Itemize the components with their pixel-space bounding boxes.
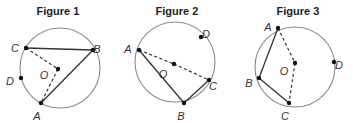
circle-outline (255, 27, 335, 107)
chord-AB (259, 28, 278, 78)
point-label-c: C (281, 110, 289, 122)
chord-BC (184, 80, 209, 103)
circle-figures-diagram: Figure 1ABCDOFigure 2ABCDOFigure 3ABCDO (0, 0, 353, 123)
point-label-a: A (32, 110, 40, 122)
point-c (287, 101, 291, 105)
figure-title: Figure 3 (277, 5, 320, 17)
point-label-a: A (123, 43, 131, 55)
point-o (172, 62, 176, 66)
point-o (293, 61, 297, 65)
point-label-c: C (209, 80, 217, 92)
point-label-o: O (280, 65, 289, 77)
figure-title: Figure 1 (37, 5, 80, 17)
point-label-c: C (11, 42, 19, 54)
point-b (257, 76, 261, 80)
figure-3: Figure 3ABCDO (245, 5, 343, 122)
chord-BA (41, 50, 93, 103)
point-a (137, 48, 141, 52)
point-b (182, 101, 186, 105)
point-c (24, 46, 28, 50)
point-label-o: O (159, 68, 168, 80)
point-label-a: A (263, 21, 271, 33)
radius-CO (26, 48, 58, 69)
point-label-b: B (245, 77, 252, 89)
point-a (276, 26, 280, 30)
point-label-d: D (202, 28, 210, 40)
figure-2: Figure 2ABCDO (123, 5, 217, 122)
chord-CB (26, 48, 93, 50)
point-d (19, 76, 23, 80)
point-a (39, 101, 43, 105)
point-label-o: O (40, 69, 49, 81)
chord-BC (259, 78, 289, 103)
circle-outline (20, 28, 100, 108)
radius-AO (278, 28, 295, 63)
figure-1: Figure 1ABCDO (6, 5, 101, 122)
radius-OC (289, 63, 295, 103)
point-o (56, 67, 60, 71)
radius-OC (174, 64, 209, 80)
point-label-d: D (335, 59, 343, 71)
point-label-d: D (6, 75, 14, 87)
point-label-b: B (93, 43, 100, 55)
point-label-b: B (177, 110, 184, 122)
figure-title: Figure 2 (156, 5, 199, 17)
